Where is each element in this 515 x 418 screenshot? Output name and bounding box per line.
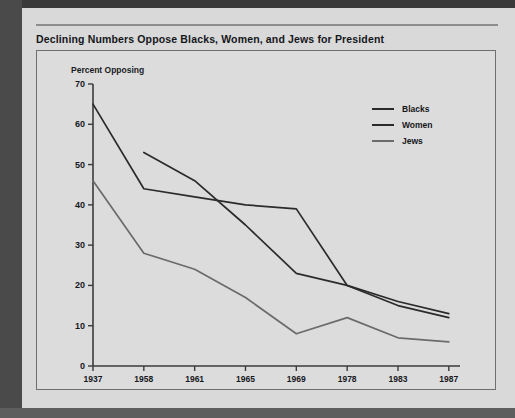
y-tick-label: 20 [59,280,85,290]
legend-label-blacks: Blacks [402,104,429,114]
y-tick-label: 30 [59,240,85,250]
y-tick-label: 60 [59,119,85,129]
page-bottom-band [0,408,515,418]
x-tick-label: 1965 [222,374,268,384]
legend-line-icon-jews [372,140,394,142]
legend-item-blacks: Blacks [372,101,433,117]
x-tick-label: 1983 [375,374,421,384]
y-tick-label: 10 [59,321,85,331]
page-title: Declining Numbers Oppose Blacks, Women, … [36,33,498,45]
legend-item-women: Women [372,117,433,133]
y-tick-label: 40 [59,200,85,210]
chart-legend: Blacks Women Jews [372,101,433,149]
y-tick-label: 0 [59,361,85,371]
page-top-band [0,0,515,8]
x-tick-label: 1987 [426,374,472,384]
page-left-band [0,0,22,418]
y-tick-label: 70 [59,79,85,89]
screenshot-page: Declining Numbers Oppose Blacks, Women, … [0,0,515,418]
series-line-women [144,152,449,317]
legend-line-icon-blacks [372,108,394,110]
legend-item-jews: Jews [372,133,433,149]
legend-label-women: Women [402,120,433,130]
y-axis-caption: Percent Opposing [71,65,144,75]
title-rule [36,24,498,26]
x-tick-label: 1961 [172,374,218,384]
legend-line-icon-women [372,124,394,126]
legend-label-jews: Jews [402,136,423,146]
x-tick-label: 1958 [121,374,167,384]
series-line-jews [93,181,449,342]
x-tick-label: 1937 [70,374,116,384]
x-tick-label: 1969 [273,374,319,384]
x-tick-label: 1978 [324,374,370,384]
y-tick-label: 50 [59,160,85,170]
